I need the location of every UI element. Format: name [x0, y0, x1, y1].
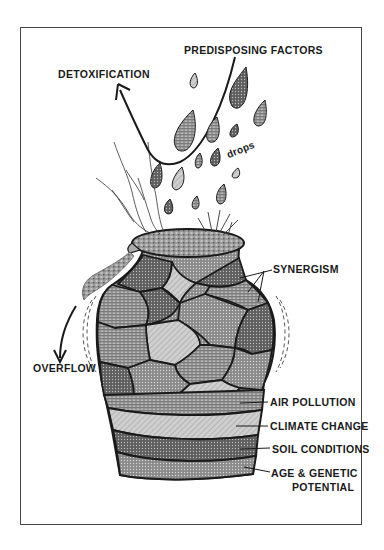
label-detoxification: DETOXIFICATION [58, 68, 150, 80]
label-potential: POTENTIAL [292, 481, 354, 493]
vase-rim [128, 229, 244, 257]
label-air-pollution: AIR POLLUTION [270, 396, 356, 408]
overflow-arrow [54, 306, 76, 362]
label-age-genetic: AGE & GENETIC [271, 467, 358, 479]
label-soil-conditions: SOIL CONDITIONS [272, 443, 370, 455]
factor-bands [104, 390, 264, 479]
label-overflow: OVERFLOW [33, 362, 96, 374]
label-predisposing-factors: PREDISPOSING FACTORS [184, 44, 323, 56]
label-synergism: SYNERGISM [273, 263, 339, 275]
label-climate-change: CLIMATE CHANGE [270, 420, 369, 432]
